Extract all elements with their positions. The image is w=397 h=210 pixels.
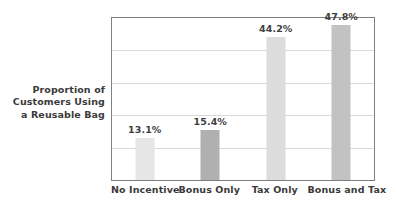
x-axis-categories: No IncentiveBonus OnlyTax OnlyBonus and … xyxy=(111,184,375,204)
bar-value-label: 47.8% xyxy=(325,11,358,22)
x-axis-category-label: Bonus and Tax xyxy=(308,184,374,195)
plot-area: 13.1%15.4%44.2%47.8% xyxy=(111,17,375,181)
chart-figure: Proportion of Customers Using a Reusable… xyxy=(0,0,397,210)
bar-value-label: 15.4% xyxy=(194,116,227,127)
x-axis-category-label: Tax Only xyxy=(242,184,308,195)
x-axis-category-label: No Incentive xyxy=(111,184,177,195)
y-axis-label-line-2: Customers Using xyxy=(10,96,105,108)
bar[interactable] xyxy=(266,37,285,180)
bar-value-label: 44.2% xyxy=(259,23,292,34)
bar[interactable] xyxy=(135,138,154,180)
y-axis-label-line-3: a Reusable Bag xyxy=(10,109,105,121)
x-axis-category-label: Bonus Only xyxy=(177,184,243,195)
bar-group: 15.4% xyxy=(178,18,244,180)
y-axis-label: Proportion of Customers Using a Reusable… xyxy=(10,84,105,121)
bar-group: 47.8% xyxy=(309,18,375,180)
bar-value-label: 13.1% xyxy=(128,124,161,135)
y-axis-label-line-1: Proportion of xyxy=(10,84,105,96)
bar-group: 13.1% xyxy=(112,18,178,180)
bar[interactable] xyxy=(201,130,220,180)
bars-layer: 13.1%15.4%44.2%47.8% xyxy=(112,18,374,180)
bar-group: 44.2% xyxy=(243,18,309,180)
bar[interactable] xyxy=(332,25,351,180)
